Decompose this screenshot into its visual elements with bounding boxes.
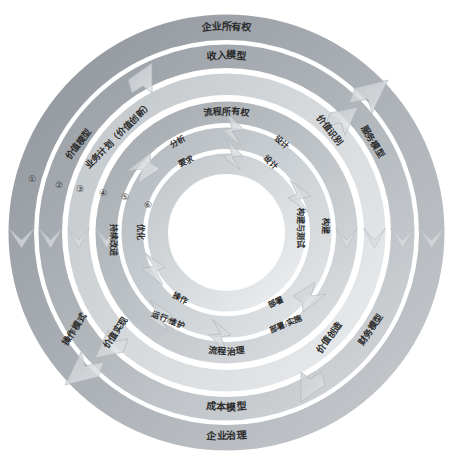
ring-badge-6: ⑥: [144, 200, 152, 210]
label-continuous-improvement: 持续改进: [109, 224, 119, 256]
ring-badge-4: ④: [99, 188, 107, 198]
label-enterprise-ownership: 企业所有权: [200, 20, 253, 34]
label-build-and-test: 构建与测试: [296, 208, 306, 248]
ring-cycle-diagram: ① ② ③ ④ ⑤ ⑥ 企业所有权 收入模型 流程所有权 企业治理 成本模型: [0, 0, 453, 465]
ring-badge-3: ③: [76, 184, 84, 194]
ring-badge-5: ⑤: [121, 192, 129, 202]
ring-badge-2: ②: [55, 180, 63, 190]
label-optimize: 优化: [136, 224, 146, 240]
center-hub: [173, 179, 281, 287]
rings-canvas: ① ② ③ ④ ⑤ ⑥ 企业所有权 收入模型 流程所有权 企业治理 成本模型: [0, 0, 453, 465]
ring-badge-1: ①: [28, 174, 36, 184]
label-build: 构建: [321, 218, 331, 235]
